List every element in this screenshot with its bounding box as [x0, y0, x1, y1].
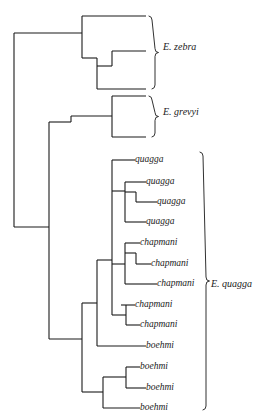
- clade-label-e-zebra: E. zebra: [163, 42, 196, 52]
- tip-label: quagga: [146, 177, 175, 187]
- tip-label: boehmi: [146, 383, 174, 393]
- tip-label: chapmani: [157, 279, 194, 289]
- clade-label-e-grevyi: E. grevyi: [163, 107, 199, 117]
- tip-label: boehmi: [140, 403, 168, 413]
- tip-label: chapmani: [140, 238, 177, 248]
- clade-bracket: [200, 152, 210, 410]
- tip-label: boehmi: [146, 341, 174, 351]
- tip-label: boehmi: [140, 362, 168, 372]
- tip-label: chapmani: [135, 300, 172, 310]
- clade-bracket: [149, 16, 159, 89]
- tip-label: quagga: [146, 217, 175, 227]
- clade-bracket-group: [149, 16, 210, 410]
- tip-label: chapmani: [140, 320, 177, 330]
- clade-label-e-quagga: E. quagga: [211, 279, 252, 289]
- tip-label: quagga: [157, 197, 186, 207]
- phylogenetic-tree-figure: quaggaquaggaquaggaquaggachapmanichapmani…: [0, 0, 261, 414]
- branch-group: [14, 16, 157, 408]
- tip-label: chapmani: [151, 259, 188, 269]
- tip-label: quagga: [135, 155, 164, 165]
- clade-bracket: [149, 96, 159, 137]
- tree-branches-svg: [0, 0, 261, 414]
